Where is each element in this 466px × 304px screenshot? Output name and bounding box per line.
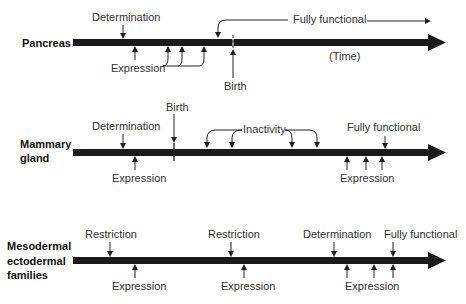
label-expression-right: Expression [340, 172, 394, 184]
down-arrow-icon [207, 130, 242, 145]
label-inactivity: Inactivity [243, 123, 286, 135]
timeline-bar [73, 39, 433, 46]
label-restriction-2: Restriction [208, 228, 260, 240]
label-expression-1: Expression [112, 280, 166, 292]
label-fully-functional: Fully functional [384, 228, 457, 240]
label-restriction-1: Restriction [85, 228, 137, 240]
timeline-arrowhead [428, 34, 446, 51]
label-determination: Determination [303, 228, 371, 240]
row-title-mammary-line2: gland [20, 152, 49, 164]
label-determination: Determination [92, 120, 160, 132]
label-birth: Birth [224, 80, 247, 92]
developmental-timeline-diagram: Pancreas Determination Expression Birth … [0, 0, 466, 304]
label-expression-left: Expression [112, 172, 166, 184]
down-arrow-icon [232, 130, 242, 145]
timeline-bar [73, 257, 433, 264]
label-fully-functional: Fully functional [347, 121, 420, 133]
row-title-line3: families [7, 269, 48, 281]
down-arrow-icon [285, 130, 292, 145]
label-determination: Determination [92, 11, 160, 23]
row-title-pancreas: Pancreas [22, 37, 71, 49]
mesodermal-ectodermal-families-row: Mesodermal ectodermal families Restricti… [7, 228, 457, 292]
label-expression: Expression [111, 62, 165, 74]
row-title-line2: ectodermal [7, 255, 66, 267]
up-arrow-icon [163, 49, 182, 66]
label-expression-2: Expression [221, 280, 275, 292]
label-expression-3: Expression [345, 280, 399, 292]
label-time: (Time) [329, 50, 360, 62]
pancreas-row: Pancreas Determination Expression Birth … [22, 11, 446, 92]
timeline-bar [73, 149, 433, 156]
label-birth: Birth [166, 101, 189, 113]
fully-functional-left-arrow [218, 20, 288, 35]
row-title-mammary-line1: Mammary [20, 138, 72, 150]
row-title-line1: Mesodermal [7, 240, 71, 252]
label-fully-functional: Fully functional [293, 13, 366, 25]
timeline-arrowhead [428, 144, 446, 161]
mammary-gland-row: Mammary gland Birth Determination Expres… [20, 101, 446, 184]
timeline-arrowhead [428, 252, 446, 269]
